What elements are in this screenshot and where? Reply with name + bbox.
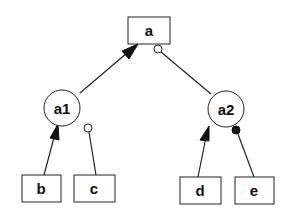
edge-d-to-a2 (198, 126, 209, 177)
edge-line (238, 134, 254, 177)
edge-a2-to-a (154, 45, 211, 94)
edge-c-to-a1 (84, 124, 96, 175)
node-b: b (22, 175, 61, 202)
arrowhead-icon (200, 126, 209, 141)
tree-diagram: a a1 a2 b c d e (0, 0, 290, 220)
node-a: a (128, 17, 170, 44)
edge-line (89, 132, 96, 175)
open-circle-icon (84, 124, 92, 132)
node-b-label: b (36, 180, 45, 197)
node-a2-label: a2 (218, 101, 235, 118)
node-e-label: e (250, 182, 258, 199)
node-d-label: d (195, 182, 204, 199)
node-a1: a1 (44, 90, 80, 126)
edge-a1-to-a (80, 44, 138, 93)
node-c-label: c (90, 180, 98, 197)
node-a2: a2 (208, 91, 244, 127)
arrowhead-icon (122, 44, 138, 59)
node-d: d (180, 177, 221, 204)
edge-e-to-a2 (232, 126, 254, 177)
node-a-label: a (145, 22, 154, 39)
open-circle-icon (154, 45, 162, 53)
node-e: e (235, 177, 274, 204)
edge-line (161, 52, 211, 94)
arrowhead-icon (50, 124, 59, 140)
node-c: c (74, 175, 115, 202)
node-a1-label: a1 (54, 100, 71, 117)
filled-circle-icon (232, 126, 240, 134)
edge-b-to-a1 (44, 124, 59, 175)
